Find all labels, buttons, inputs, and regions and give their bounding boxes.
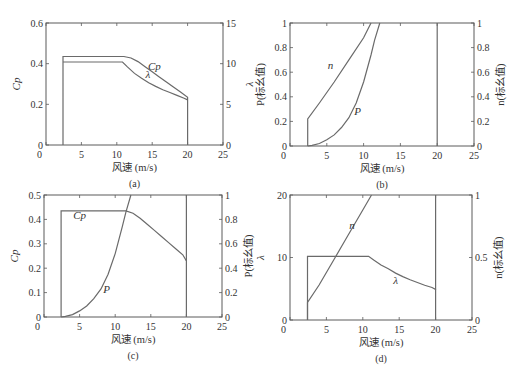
x-tick-label: 10 (359, 150, 369, 161)
y-left-tick-label: 0 (36, 312, 41, 323)
x-tick-label: 5 (324, 324, 329, 335)
subplot-caption: (b) (376, 179, 388, 191)
series-line-n (308, 23, 371, 146)
y-left-tick-label: 0.5 (29, 190, 42, 201)
y-left-tick-label: 0.6 (275, 67, 288, 78)
subplot-caption: (c) (127, 350, 138, 362)
x-tick-label: 20 (181, 321, 191, 332)
x-axis-label: 风速 (m/s) (112, 162, 157, 174)
x-tick-label: 0 (35, 321, 40, 332)
y-right-tick-label: 0.8 (477, 42, 490, 53)
y-left-tick-label: 0.2 (275, 116, 288, 127)
x-axis-label: 风速 (m/s) (360, 163, 405, 175)
y-right-tick-label: 0.4 (477, 91, 490, 102)
x-tick-label: 25 (469, 150, 479, 161)
y-right-tick-label: 10 (226, 58, 236, 69)
plot-frame-d (290, 195, 472, 320)
y-left-axis-label: P(标幺值) (254, 63, 267, 106)
x-tick-label: 0 (281, 150, 286, 161)
y-right-tick-label: 15 (226, 18, 236, 29)
x-tick-label: 25 (467, 324, 477, 335)
x-tick-label: 20 (183, 149, 193, 160)
y-right-tick-label: 1 (477, 18, 482, 29)
y-left-tick-label: 0.1 (29, 287, 42, 298)
y-left-tick-label: 0.3 (29, 238, 42, 249)
y-left-tick-label: 10 (277, 252, 287, 263)
y-right-tick-label: 0.8 (225, 214, 238, 225)
y-left-axis-label: Cp (10, 77, 22, 90)
y-right-tick-label: 5 (226, 99, 231, 110)
y-left-tick-label: 0.8 (275, 42, 288, 53)
y-left-tick-label: 0.6 (31, 18, 44, 29)
series-line-Cp (61, 211, 186, 317)
x-tick-label: 20 (432, 150, 442, 161)
x-axis-label: 风速 (m/s) (111, 334, 156, 346)
subplot-caption: (d) (375, 353, 387, 365)
y-right-tick-label: 0 (225, 312, 230, 323)
y-right-axis-label: n(标幺值) (494, 63, 507, 106)
series-line-P (308, 23, 380, 146)
x-tick-label: 15 (394, 324, 404, 335)
series-line-P (61, 195, 131, 317)
y-right-tick-label: 0.6 (477, 67, 490, 78)
y-left-tick-label: 0 (282, 141, 287, 152)
y-left-tick-label: 0.4 (29, 214, 42, 225)
y-left-tick-label: 0.2 (31, 99, 44, 110)
y-right-tick-label: 0.5 (475, 252, 488, 263)
series-label-λ: λ (392, 274, 398, 286)
y-left-tick-label: 0.4 (275, 91, 288, 102)
y-right-tick-label: 1 (475, 190, 480, 201)
x-tick-label: 10 (110, 321, 120, 332)
y-right-tick-label: 0 (475, 315, 480, 326)
series-label-λ: λ (145, 68, 151, 80)
x-axis-label: 风速 (m/s) (359, 337, 404, 349)
x-tick-label: 15 (147, 149, 157, 160)
y-right-axis-label: n(标幺值) (492, 236, 505, 279)
x-tick-label: 10 (358, 324, 368, 335)
series-label-P: P (102, 283, 110, 295)
x-tick-label: 5 (79, 149, 84, 160)
y-left-tick-label: 0.2 (29, 263, 42, 274)
x-tick-label: 15 (395, 150, 405, 161)
y-right-axis-label: λ (243, 81, 255, 87)
series-label-n: n (349, 219, 355, 231)
y-left-tick-label: 20 (277, 190, 287, 201)
x-tick-label: 25 (218, 149, 228, 160)
plot-frame-a (46, 23, 223, 145)
x-tick-label: 25 (217, 321, 227, 332)
x-tick-label: 5 (77, 321, 82, 332)
x-tick-label: 20 (431, 324, 441, 335)
x-tick-label: 15 (146, 321, 156, 332)
x-tick-label: 0 (37, 149, 42, 160)
x-tick-label: 5 (324, 150, 329, 161)
figure: 051015202500.20.40.6051015风速 (m/s)(a)Cpλ… (0, 0, 515, 372)
x-tick-label: 0 (281, 324, 286, 335)
y-right-tick-label: 0.4 (225, 263, 238, 274)
series-label-n: n (328, 59, 334, 71)
x-tick-label: 10 (112, 149, 122, 160)
series-line-λ (63, 62, 188, 100)
series-line-λ (308, 256, 436, 320)
subplot-caption: (a) (129, 178, 140, 190)
series-line-Cp (63, 57, 188, 146)
y-right-tick-label: 0.2 (225, 287, 238, 298)
y-left-tick-label: 0 (282, 315, 287, 326)
y-right-tick-label: 0.2 (477, 116, 490, 127)
y-left-tick-label: 0 (38, 140, 43, 151)
y-left-axis-label: Cp (8, 249, 20, 262)
y-right-tick-label: 0 (226, 140, 231, 151)
y-right-tick-label: 1 (225, 190, 230, 201)
series-line-n (308, 195, 372, 320)
y-left-tick-label: 0.4 (31, 58, 44, 69)
series-label-P: P (353, 105, 361, 117)
plot-frame-b (290, 23, 474, 146)
y-right-tick-label: 0.6 (225, 238, 238, 249)
series-label-Cp: Cp (73, 209, 86, 221)
y-left-tick-label: 1 (282, 18, 287, 29)
y-left-axis-label: λ (254, 255, 266, 261)
y-right-tick-label: 0 (477, 141, 482, 152)
